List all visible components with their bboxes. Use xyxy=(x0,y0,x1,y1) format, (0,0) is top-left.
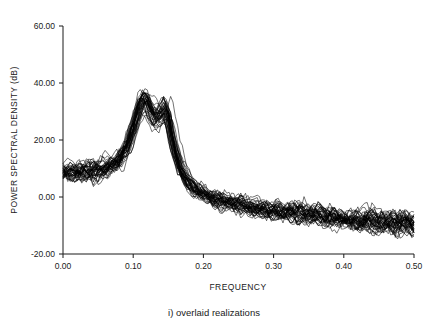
figure-background xyxy=(0,0,429,330)
x-tick-label: 0.30 xyxy=(265,261,282,271)
figure-caption: i) overlaid realizations xyxy=(168,307,260,318)
y-tick-label: 60.00 xyxy=(34,21,56,31)
y-tick-label: 40.00 xyxy=(34,78,56,88)
x-tick-label: 0.10 xyxy=(125,261,142,271)
x-tick-label: 0.00 xyxy=(55,261,72,271)
x-axis-title: FREQUENCY xyxy=(210,282,267,292)
x-tick-label: 0.20 xyxy=(195,261,212,271)
y-axis-title: POWER SPECTRAL DENSITY (dB) xyxy=(9,66,19,213)
x-tick-label: 0.40 xyxy=(336,261,353,271)
y-tick-label: -20.00 xyxy=(31,249,55,259)
spectral-density-figure: -20.000.0020.0040.0060.00 0.000.100.200.… xyxy=(0,0,429,330)
x-tick-label: 0.50 xyxy=(406,261,423,271)
y-tick-label: 0.00 xyxy=(38,192,55,202)
y-tick-label: 20.00 xyxy=(34,135,56,145)
